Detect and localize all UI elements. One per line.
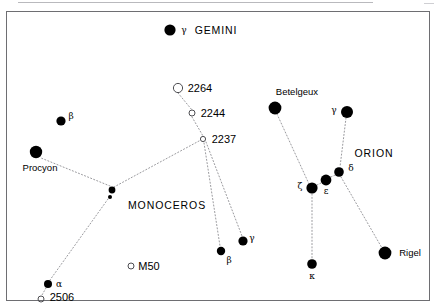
constellation-line	[340, 118, 346, 167]
star-name-label-procyon: Procyon	[23, 162, 58, 173]
star-marker-procyon	[30, 146, 42, 158]
cluster-label-ngc2237: 2237	[212, 133, 236, 145]
cluster-label-ngc2244: 2244	[201, 107, 225, 119]
star-marker-alpha-mon	[44, 280, 52, 288]
map-label-group: γβProcyonαβγBetelgeuxγδεζκRigel226422442…	[23, 24, 421, 303]
star-greek-label-gamma-ori: γ	[331, 105, 336, 115]
constellation-label-gemini: GEMINI	[195, 24, 238, 36]
star-greek-label-zeta-ori: ζ	[298, 181, 303, 191]
star-marker-delta-ori	[334, 167, 344, 177]
star-chart-page: γβProcyonαβγBetelgeuxγδεζκRigel226422442…	[0, 0, 438, 308]
star-greek-label-beta-cmi: β	[68, 111, 73, 121]
star-marker-gamma-mon	[238, 236, 247, 245]
star-glyph-group	[30, 24, 392, 288]
cluster-marker-ngc2264	[173, 83, 182, 92]
star-greek-label-alpha-mon: α	[56, 279, 62, 289]
constellation-line	[192, 117, 203, 136]
constellation-line-group	[41, 93, 382, 295]
star-marker-mon-chain-a	[109, 187, 116, 194]
sky-map-canvas: γβProcyonαβγBetelgeuxγδεζκRigel226422442…	[0, 0, 438, 308]
star-marker-beta-mon	[217, 247, 225, 255]
constellation-line	[341, 177, 382, 248]
constellation-line	[42, 288, 46, 295]
star-marker-epsilon-ori	[321, 175, 332, 186]
star-greek-label-beta-mon: β	[226, 255, 231, 265]
cluster-marker-ngc2237	[200, 136, 205, 141]
constellation-label-orion: ORION	[355, 147, 394, 159]
constellation-line	[114, 141, 199, 187]
star-marker-betelgeux	[269, 102, 282, 115]
star-marker-kappa-ori	[307, 259, 317, 269]
cluster-marker-ngc2244	[189, 110, 195, 116]
constellation-line	[50, 199, 108, 280]
cluster-label-ngc2506: 2506	[50, 291, 74, 303]
cluster-label-m50: M50	[138, 260, 159, 272]
star-name-label-betelgeux: Betelgeux	[276, 86, 319, 97]
constellation-line	[178, 93, 192, 110]
star-marker-zeta-ori	[306, 182, 317, 193]
constellation-line	[331, 175, 335, 177]
star-greek-label-gamma-mon: γ	[249, 233, 254, 243]
cluster-marker-m50	[128, 263, 134, 269]
star-marker-rigel	[379, 247, 392, 260]
cluster-glyph-group	[38, 83, 206, 302]
cluster-marker-ngc2506	[38, 296, 44, 302]
constellation-line	[317, 183, 321, 185]
star-marker-gamma-ori	[341, 106, 353, 118]
cluster-label-ngc2264: 2264	[188, 82, 212, 94]
star-greek-label-epsilon-ori: ε	[324, 186, 329, 196]
star-greek-label-delta-ori: δ	[348, 163, 353, 173]
star-marker-gamma-gem	[164, 24, 175, 35]
star-name-label-rigel: Rigel	[399, 247, 421, 258]
constellation-line	[277, 114, 309, 184]
star-greek-label-kappa-ori: κ	[309, 271, 315, 281]
constellation-label-monoceros: MONOCEROS	[128, 199, 206, 211]
star-marker-mon-chain-b	[108, 195, 112, 199]
star-greek-label-gamma-gem: γ	[181, 25, 186, 35]
star-marker-beta-cmi	[56, 116, 65, 125]
